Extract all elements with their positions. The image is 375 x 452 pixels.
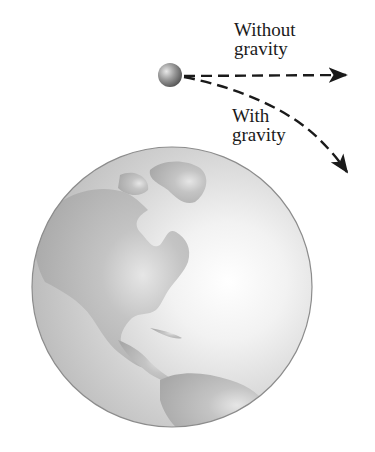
gravity-orbit-diagram: Without gravity With gravity — [0, 0, 375, 452]
ball-icon — [158, 63, 182, 87]
without-gravity-arrow — [184, 75, 346, 76]
label-with-gravity-line1: With — [232, 106, 286, 125]
label-with-gravity: With gravity — [232, 106, 286, 144]
label-without-gravity-line2: gravity — [234, 39, 296, 58]
label-without-gravity: Without gravity — [234, 20, 296, 58]
earth-globe-icon — [32, 147, 312, 440]
label-without-gravity-line1: Without — [234, 20, 296, 39]
diagram-canvas — [0, 0, 375, 452]
label-with-gravity-line2: gravity — [232, 125, 286, 144]
